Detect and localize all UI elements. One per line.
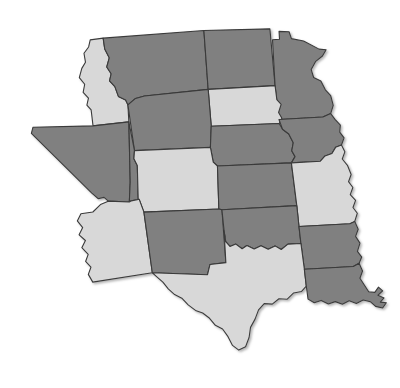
state-louisiana[interactable] bbox=[304, 262, 386, 312]
state-arkansas[interactable] bbox=[299, 221, 362, 269]
state-north-dakota[interactable] bbox=[204, 27, 275, 90]
state-colorado[interactable] bbox=[133, 146, 219, 214]
state-wyoming[interactable] bbox=[127, 89, 212, 151]
state-minnesota[interactable] bbox=[272, 29, 334, 120]
state-nevada[interactable] bbox=[31, 122, 133, 207]
map-figure bbox=[0, 0, 400, 388]
state-south-dakota[interactable] bbox=[208, 85, 282, 127]
state-kansas[interactable] bbox=[216, 162, 296, 210]
us-western-states-map bbox=[0, 0, 400, 388]
state-arizona[interactable] bbox=[76, 199, 152, 283]
